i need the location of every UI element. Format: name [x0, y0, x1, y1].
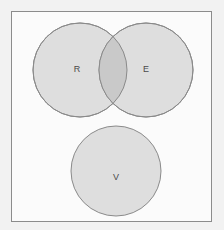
venn-label-e: E — [143, 64, 149, 74]
venn-circle-v[interactable] — [71, 126, 161, 216]
figure-root: R E V — [0, 0, 224, 230]
venn-label-v: V — [113, 172, 119, 182]
venn-label-r: R — [74, 64, 81, 74]
venn-diagram: R E V — [0, 0, 224, 230]
